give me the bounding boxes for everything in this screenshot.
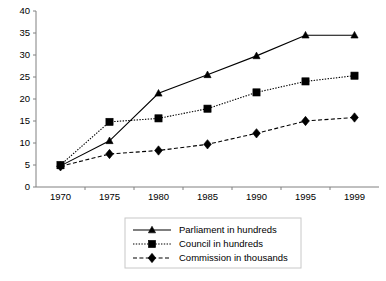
- y-axis-tick-label: 20: [19, 93, 30, 104]
- line-chart: 0510152025303540 19701975198019851990199…: [0, 0, 386, 281]
- data-point-diamond: [351, 113, 359, 122]
- legend-label-0: Parliament in hundreds: [179, 224, 277, 235]
- x-axis-tick-label: 1985: [197, 191, 218, 202]
- y-axis-tick-label: 25: [19, 71, 30, 82]
- y-axis: 0510152025303540: [19, 5, 36, 192]
- data-point-square: [106, 118, 113, 125]
- y-axis-tick-label: 0: [25, 181, 30, 192]
- x-axis-tick-label: 1990: [246, 191, 267, 202]
- chart-canvas: 0510152025303540 19701975198019851990199…: [0, 0, 386, 281]
- data-point-square: [155, 115, 162, 122]
- y-axis-tick-label: 30: [19, 49, 30, 60]
- data-point-diamond: [204, 140, 212, 149]
- legend-label-2: Commission in thousands: [179, 252, 288, 263]
- series-diamond: [57, 113, 359, 171]
- y-axis-tick-label: 40: [19, 5, 30, 16]
- x-axis-tick-label: 1999: [344, 191, 365, 202]
- x-axis-tick-label: 1970: [50, 191, 71, 202]
- chart-legend: Parliament in hundredsCouncil in hundred…: [125, 218, 301, 268]
- y-axis-tick-label: 5: [25, 159, 30, 170]
- x-axis: 1970197519801985199019951999: [36, 187, 379, 202]
- data-point-square: [302, 78, 309, 85]
- y-axis-tick-label: 15: [19, 115, 30, 126]
- data-point-square: [148, 240, 155, 247]
- series-layer: [57, 31, 359, 171]
- data-point-diamond: [106, 149, 114, 158]
- y-axis-tick-label: 10: [19, 137, 30, 148]
- data-point-diamond: [302, 116, 310, 125]
- data-point-square: [253, 89, 260, 96]
- data-point-square: [204, 105, 211, 112]
- legend-label-1: Council in hundreds: [179, 238, 263, 249]
- data-point-diamond: [253, 129, 261, 138]
- data-point-diamond: [155, 146, 163, 155]
- x-axis-tick-label: 1975: [99, 191, 120, 202]
- y-axis-tick-label: 35: [19, 27, 30, 38]
- data-point-square: [351, 72, 358, 79]
- x-axis-tick-label: 1980: [148, 191, 169, 202]
- series-line: [61, 76, 355, 165]
- x-axis-tick-label: 1995: [295, 191, 316, 202]
